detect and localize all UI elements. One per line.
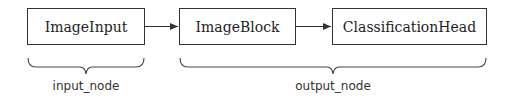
label-input-node: input_node xyxy=(36,79,136,93)
node-image-block: ImageBlock xyxy=(179,8,296,45)
brace-input-node xyxy=(28,58,144,74)
brace-output-node xyxy=(180,58,486,74)
node-image-input: ImageInput xyxy=(27,8,145,45)
node-classification-head: ClassificationHead xyxy=(332,8,487,45)
label-output-node: output_node xyxy=(273,79,393,93)
